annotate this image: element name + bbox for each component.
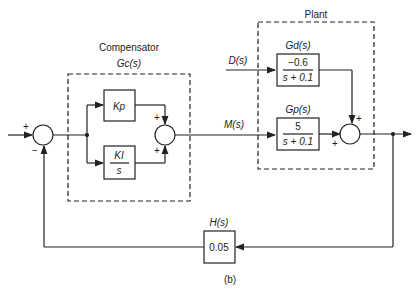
sum2-top-sign: + [154,112,160,123]
h-label: H(s) [210,217,229,228]
gd-numerator: −0.6 [288,57,308,68]
sum3-top-sign: + [356,113,362,124]
sum3-left-sign: + [332,138,338,149]
gc-label: Gc(s) [117,58,141,69]
manipulated-label: M(s) [224,119,244,130]
figure-caption: (b) [224,274,236,285]
gp-numerator: 5 [295,121,301,132]
gp-label: Gp(s) [286,104,311,115]
sum1-plus-sign: + [23,121,29,132]
disturbance-label: D(s) [229,55,248,66]
summing-junction-1 [33,125,53,145]
compensator-title: Compensator [99,42,160,53]
sum1-minus-sign: − [32,145,38,156]
summing-junction-3 [340,124,360,144]
gp-denominator: s + 0.1 [283,136,313,147]
sum2-bottom-sign: + [154,145,160,156]
gd-label: Gd(s) [286,40,311,51]
block-diagram: Compensator Gc(s) Kp KI s Plant Gd(s) −0… [0,0,418,293]
ki-numerator: KI [114,150,124,161]
ki-denominator: s [117,165,122,176]
gd-denominator: s + 0.1 [283,72,313,83]
summing-junction-2 [155,125,175,145]
kp-label: Kp [113,101,126,112]
plant-title: Plant [305,9,328,20]
h-gain: 0.05 [209,242,229,253]
